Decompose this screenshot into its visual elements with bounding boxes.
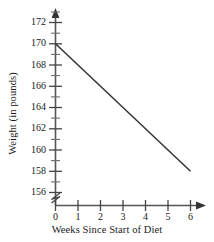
- y-tick-label: 158: [20, 165, 46, 176]
- y-tick-label: 164: [20, 101, 46, 112]
- x-tick-label: 6: [184, 211, 198, 222]
- x-tick-label: 4: [139, 211, 153, 222]
- x-tick-label: 1: [71, 211, 85, 222]
- x-axis-title: Weeks Since Start of Diet: [0, 224, 214, 235]
- arrow-up-icon: [52, 8, 60, 18]
- x-tick-label: 2: [94, 211, 108, 222]
- chart-figure: 172 170 168 166 164 162 160 158 156 0 1 …: [0, 0, 214, 242]
- y-tick-label: 168: [20, 59, 46, 70]
- y-axis-title: Weight (in pounds): [7, 39, 18, 189]
- x-tick-label: 0: [49, 211, 63, 222]
- y-tick-label: 170: [20, 37, 46, 48]
- arrow-right-icon: [196, 201, 206, 209]
- y-tick-label: 156: [20, 186, 46, 197]
- y-tick-label: 172: [20, 16, 46, 27]
- data-line-weight: [56, 44, 191, 172]
- y-tick-label: 160: [20, 144, 46, 155]
- y-tick-label: 162: [20, 122, 46, 133]
- x-tick-label: 5: [161, 211, 175, 222]
- x-tick-label: 3: [116, 211, 130, 222]
- y-tick-label: 166: [20, 80, 46, 91]
